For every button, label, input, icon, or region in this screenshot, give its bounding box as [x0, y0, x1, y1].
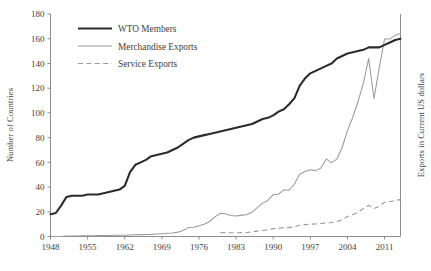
x-tick-label: 1983 [227, 242, 246, 252]
legend-label-service-exports: Service Exports [118, 59, 178, 69]
x-tick-label: 1969 [153, 242, 172, 252]
x-tick-label: 1955 [79, 242, 98, 252]
plot-frame [51, 14, 401, 237]
legend: WTO Members Merchandise Exports Service … [78, 24, 198, 69]
y-axis-left-title: Number of Countries [5, 88, 15, 162]
x-tick-label: 1997 [301, 242, 320, 252]
legend-label-merchandise-exports: Merchandise Exports [118, 42, 198, 52]
series-layer [51, 34, 401, 237]
y-tick-label: 80 [36, 133, 46, 143]
y-tick-label: 40 [36, 182, 46, 192]
y-axis-ticks: 020406080100120140160180 [31, 9, 51, 242]
y-tick-label: 0 [40, 232, 45, 242]
series-line-merchandise-exports [51, 34, 401, 237]
x-tick-label: 2011 [376, 242, 394, 252]
y-tick-label: 120 [31, 83, 45, 93]
x-tick-label: 1948 [42, 242, 61, 252]
series-line-service-exports [220, 200, 400, 233]
y-tick-label: 180 [31, 9, 45, 19]
x-tick-label: 2004 [338, 242, 357, 252]
series-line-wto-members [51, 39, 401, 215]
line-chart: 020406080100120140160180 194819551962196… [0, 0, 431, 271]
x-tick-label: 1976 [190, 242, 209, 252]
x-tick-label: 1990 [264, 242, 283, 252]
chart-container: 020406080100120140160180 194819551962196… [0, 0, 431, 271]
legend-label-wto-members: WTO Members [118, 24, 177, 34]
y-tick-label: 20 [36, 207, 46, 217]
y-axis-right-title: Exports in Current US dollars [416, 73, 426, 177]
x-tick-label: 1962 [116, 242, 134, 252]
x-axis-ticks: 1948195519621969197619831990199720042011 [42, 237, 394, 252]
y-tick-label: 100 [31, 108, 45, 118]
y-tick-label: 60 [36, 158, 46, 168]
y-tick-label: 160 [31, 34, 45, 44]
y-tick-label: 140 [31, 59, 45, 69]
